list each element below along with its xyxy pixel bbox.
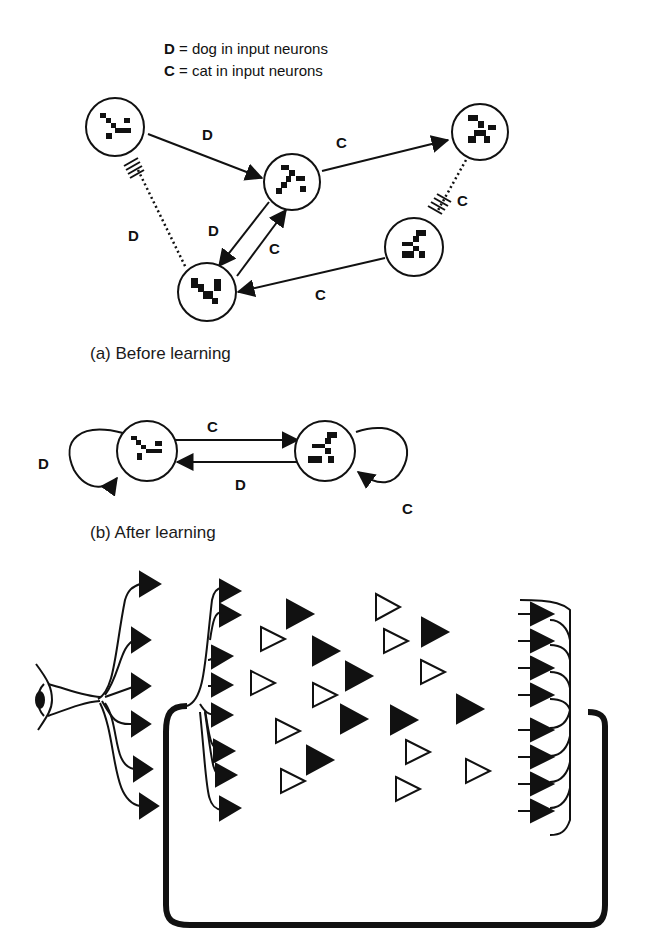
- edge-label-d2: D: [208, 222, 219, 239]
- edge-label-c2: C: [457, 192, 468, 209]
- edge-label-c3: C: [269, 240, 280, 257]
- inhibit-d: [138, 170, 186, 268]
- edge-label-c4: C: [315, 286, 326, 303]
- caption-before-learning: (a) Before learning: [90, 344, 231, 364]
- figure-root: D = dog in input neurons C = cat in inpu…: [0, 0, 651, 938]
- eye-pupil: [36, 692, 44, 708]
- edge-label-d1: D: [202, 126, 213, 143]
- diagram-svg: [0, 0, 651, 938]
- panel-a-graph: [86, 98, 508, 321]
- edge-label-b-loop-d: D: [38, 455, 49, 472]
- edge-label-d3: D: [128, 227, 139, 244]
- caption-after-learning: (b) After learning: [90, 523, 216, 543]
- edge-d-2: [219, 202, 269, 266]
- edge-label-b-loop-c: C: [402, 500, 413, 517]
- edge-label-b-d: D: [235, 476, 246, 493]
- self-loop-c: [356, 428, 407, 482]
- neuron-triangles: [132, 572, 553, 822]
- self-loop-d: [70, 430, 123, 487]
- neuron-a2: [264, 154, 320, 210]
- edge-c-3: [238, 258, 385, 292]
- edge-label-b-c: C: [207, 418, 218, 435]
- edge-label-c1: C: [336, 134, 347, 151]
